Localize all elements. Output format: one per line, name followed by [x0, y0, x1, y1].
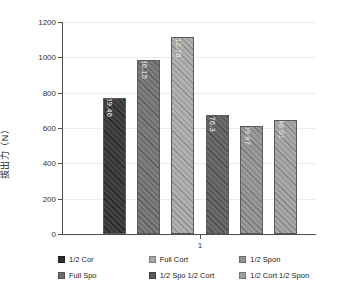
bar[interactable]: 676.3	[206, 115, 229, 234]
bar[interactable]: 648.01	[274, 120, 297, 234]
grid-line	[62, 22, 316, 23]
x-tick-label: 1	[198, 241, 202, 250]
y-tick-mark	[58, 199, 62, 200]
legend-item-label: 1/2 Spo 1/2 Cort	[160, 271, 215, 280]
y-tick-label: 600	[43, 124, 56, 133]
legend-item[interactable]: Full Spo	[58, 268, 145, 282]
y-tick-label: 1200	[38, 18, 56, 27]
plot-area: 020040060080010001200 769.46986.151112.7…	[62, 22, 316, 235]
bar-value-label: 648.01	[277, 120, 286, 139]
x-tick-mark	[200, 235, 201, 239]
legend-swatch-icon	[239, 256, 246, 263]
y-tick-mark	[58, 163, 62, 164]
y-axis-title: 拔出力（N）	[0, 92, 11, 212]
legend-item[interactable]: 1/2 Spon	[239, 252, 326, 266]
bar[interactable]: 986.15	[137, 60, 160, 234]
y-tick-mark	[58, 57, 62, 58]
legend-swatch-icon	[58, 256, 65, 263]
bar-value-label: 676.3	[208, 115, 217, 132]
legend-item[interactable]: Full Cort	[149, 252, 236, 266]
legend-swatch-icon	[149, 256, 156, 263]
legend-swatch-icon	[58, 272, 65, 279]
bar-value-label: 1112.76	[174, 37, 183, 58]
y-tick-label: 0	[52, 230, 56, 239]
bar-hatch-pattern	[172, 38, 193, 233]
x-axis-line	[62, 234, 316, 235]
y-tick-mark	[58, 128, 62, 129]
bar-hatch-pattern	[207, 116, 228, 233]
bar-hatch-pattern	[138, 61, 159, 233]
chart-root: 拔出力（N） 020040060080010001200 769.46986.1…	[0, 0, 341, 292]
bar[interactable]: 1112.76	[171, 37, 194, 234]
bar-hatch-pattern	[104, 99, 125, 233]
legend-swatch-icon	[239, 272, 246, 279]
legend-item-label: 1/2 Cort 1/2 Spon	[250, 271, 309, 280]
legend-item-label: Full Cort	[160, 255, 188, 264]
y-tick-label: 800	[43, 88, 56, 97]
bar[interactable]: 769.46	[103, 98, 126, 234]
y-axis-line	[62, 22, 63, 235]
y-tick-mark	[58, 22, 62, 23]
bar[interactable]: 609.87	[240, 126, 263, 234]
chart-legend: 1/2 CorFull Cort1/2 SponFull Spo1/2 Spo …	[58, 252, 326, 282]
legend-item-label: 1/2 Spon	[250, 255, 280, 264]
legend-swatch-icon	[149, 272, 156, 279]
bar-value-label: 769.46	[105, 98, 114, 117]
bar-value-label: 986.15	[140, 60, 149, 79]
legend-item-label: Full Spo	[69, 271, 97, 280]
legend-item-label: 1/2 Cor	[69, 255, 94, 264]
y-tick-label: 400	[43, 159, 56, 168]
y-tick-mark	[58, 234, 62, 235]
y-tick-mark	[58, 93, 62, 94]
bar-value-label: 609.87	[243, 126, 252, 145]
legend-item[interactable]: 1/2 Spo 1/2 Cort	[149, 268, 236, 282]
legend-item[interactable]: 1/2 Cort 1/2 Spon	[239, 268, 326, 282]
y-tick-label: 200	[43, 194, 56, 203]
y-tick-label: 1000	[38, 53, 56, 62]
legend-item[interactable]: 1/2 Cor	[58, 252, 145, 266]
